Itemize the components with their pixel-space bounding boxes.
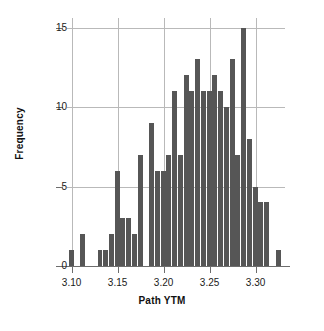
x-tick-label: 3.30 [236, 277, 276, 288]
histogram-figure: 051015 3.103.153.203.253.30 Path YTM Fre… [0, 0, 324, 331]
x-tick-label: 3.10 [52, 277, 92, 288]
x-tick-label: 3.15 [98, 277, 138, 288]
x-axis-title: Path YTM [0, 295, 324, 306]
x-axis-ticks: 3.103.153.203.253.30 [0, 0, 324, 331]
y-axis-title: Frequency [14, 84, 25, 184]
x-tick-mark [164, 267, 165, 273]
x-tick-mark [256, 267, 257, 273]
x-tick-mark [118, 267, 119, 273]
x-tick-label: 3.25 [190, 277, 230, 288]
x-tick-mark [72, 267, 73, 273]
x-tick-label: 3.20 [144, 277, 184, 288]
x-tick-mark [210, 267, 211, 273]
